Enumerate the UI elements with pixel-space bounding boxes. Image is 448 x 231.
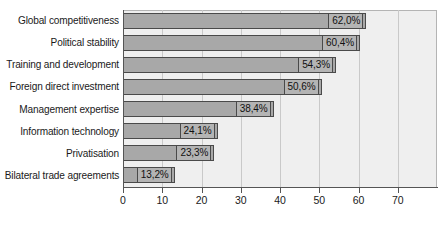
- y-axis-line: [123, 10, 124, 188]
- x-tick-label-10: 10: [150, 194, 174, 206]
- x-tick-label-50: 50: [307, 194, 331, 206]
- category-label: Management expertise: [5, 104, 119, 115]
- bar-row: 23,3%: [123, 143, 437, 165]
- x-tick-label-60: 60: [347, 194, 371, 206]
- bar-row: 62,0%: [123, 10, 437, 32]
- x-tick-label-20: 20: [190, 194, 214, 206]
- category-label: Global competitiveness: [5, 15, 119, 26]
- category-label: Bilateral trade agreements: [5, 170, 119, 181]
- x-tick-mark-20: [202, 188, 203, 193]
- x-tick-mark-70: [398, 188, 399, 193]
- bar-chart: 62,0%60,4%54,3%50,6%38,4%24,1%23,3%13,2%…: [0, 0, 448, 231]
- bar-value-label: 60,4%: [322, 35, 357, 51]
- bar-row: 24,1%: [123, 121, 437, 143]
- bar-value-label: 23,3%: [176, 145, 211, 161]
- bar-value-label: 62,0%: [328, 13, 363, 29]
- category-label: Training and development: [5, 59, 119, 70]
- x-tick-mark-10: [162, 188, 163, 193]
- x-tick-label-40: 40: [268, 194, 292, 206]
- x-tick-mark-40: [280, 188, 281, 193]
- x-tick-mark-30: [241, 188, 242, 193]
- category-label: Foreign direct investment: [5, 81, 119, 92]
- bar-value-label: 13,2%: [137, 167, 172, 183]
- bar-value-label: 38,4%: [236, 101, 271, 117]
- x-tick-mark-60: [359, 188, 360, 193]
- category-label: Information technology: [5, 126, 119, 137]
- bar-row: 50,6%: [123, 76, 437, 98]
- bar-row: 60,4%: [123, 32, 437, 54]
- bar-value-label: 24,1%: [180, 123, 215, 139]
- category-labels: Global competitivenessPolitical stabilit…: [0, 10, 119, 187]
- category-label: Political stability: [5, 37, 119, 48]
- bar-row: 38,4%: [123, 99, 437, 121]
- x-tick-label-30: 30: [229, 194, 253, 206]
- x-tick-label-70: 70: [386, 194, 410, 206]
- bar-value-label: 54,3%: [298, 57, 333, 73]
- x-tick-label-0: 0: [111, 194, 135, 206]
- x-tick-mark-50: [319, 188, 320, 193]
- bar-row: 54,3%: [123, 54, 437, 76]
- category-label: Privatisation: [5, 148, 119, 159]
- bar-value-label: 50,6%: [284, 79, 319, 95]
- x-tick-mark-0: [123, 188, 124, 193]
- bar-row: 13,2%: [123, 165, 437, 187]
